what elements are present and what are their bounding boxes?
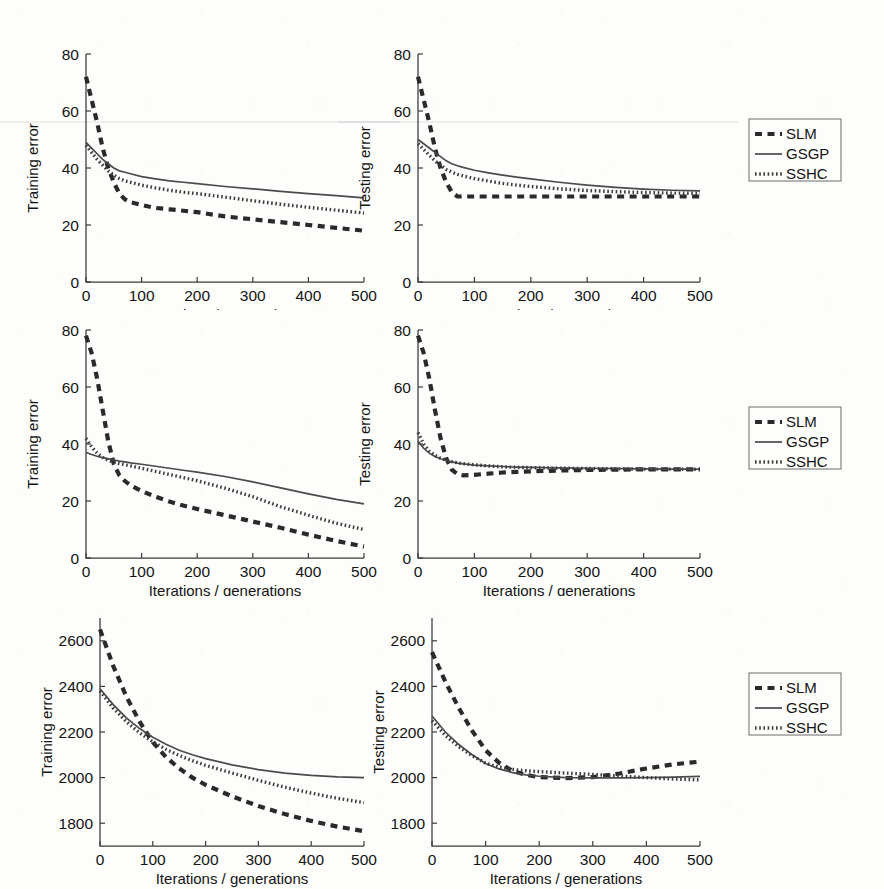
x-tick-label: 200	[193, 851, 219, 868]
series-line-sshc	[86, 145, 364, 213]
y-tick-label: 60	[394, 103, 412, 120]
chart-panel-row1-testing: 0204060800100200300400500Iterations / ge…	[338, 18, 738, 310]
x-tick-label: 300	[580, 851, 606, 868]
y-tick-label: 60	[394, 379, 412, 396]
axis-spine	[418, 54, 700, 282]
x-tick-label: 500	[687, 851, 713, 868]
legend-item-slm[interactable]: SLM	[755, 679, 817, 696]
chart-legend-row2: SLMGSGPSSHC	[748, 406, 846, 474]
axis-spine	[86, 330, 364, 558]
series-line-gsgp	[86, 453, 364, 504]
y-tick-label: 0	[70, 550, 79, 567]
y-tick-label: 40	[62, 160, 80, 177]
x-tick-label: 100	[140, 851, 166, 868]
series-line-slm	[100, 629, 364, 831]
x-tick-label: 0	[414, 563, 423, 580]
x-tick-label: 100	[129, 287, 155, 304]
figure-root: 0204060800100200300400500Iterations / ge…	[0, 0, 884, 889]
y-tick-label: 20	[62, 217, 80, 234]
x-tick-label: 0	[414, 287, 423, 304]
chart-legend-row3: SLMGSGPSSHC	[748, 672, 846, 740]
x-tick-label: 500	[687, 287, 713, 304]
series-group	[432, 652, 700, 780]
x-tick-label: 500	[687, 563, 713, 580]
x-axis-title: Iterations / generations	[490, 870, 643, 887]
x-tick-label: 200	[518, 563, 544, 580]
x-tick-label: 200	[526, 851, 552, 868]
y-tick-label: 40	[394, 436, 412, 453]
x-tick-label: 300	[574, 287, 600, 304]
chart-panel-row3-testing: 180020002200240026000100200300400500Iter…	[338, 594, 738, 889]
x-tick-label: 0	[82, 287, 91, 304]
legend-item-gsgp[interactable]: GSGP	[755, 699, 829, 716]
y-tick-label: 2000	[59, 769, 94, 786]
x-tick-label: 400	[295, 287, 321, 304]
y-tick-label: 0	[70, 274, 79, 291]
y-tick-label: 2400	[391, 678, 426, 695]
series-line-gsgp	[418, 140, 700, 191]
legend-item-gsgp[interactable]: GSGP	[755, 145, 829, 162]
chart-panel-row2-testing: 0204060800100200300400500Iterations / ge…	[338, 306, 738, 596]
series-group	[418, 77, 700, 197]
legend-item-slm[interactable]: SLM	[755, 413, 817, 430]
y-tick-label: 80	[62, 322, 80, 339]
x-tick-label: 400	[631, 287, 657, 304]
x-tick-label: 100	[473, 851, 499, 868]
x-tick-label: 200	[518, 287, 544, 304]
legend-item-gsgp[interactable]: GSGP	[755, 433, 829, 450]
chart-legend-row1: SLMGSGPSSHC	[748, 118, 846, 186]
legend-label: GSGP	[786, 699, 829, 716]
legend-label: GSGP	[786, 433, 829, 450]
legend-item-slm[interactable]: SLM	[755, 125, 817, 142]
axes: 0204060800100200300400500	[394, 322, 714, 581]
y-tick-label: 0	[402, 550, 411, 567]
axis-spine	[86, 54, 364, 282]
y-tick-label: 40	[62, 436, 80, 453]
series-line-sshc	[418, 144, 700, 194]
y-axis-title: Training error	[38, 687, 55, 776]
y-axis-title: Testing error	[356, 126, 373, 209]
y-tick-label: 60	[62, 103, 80, 120]
y-tick-label: 2400	[59, 678, 94, 695]
y-tick-label: 2600	[59, 632, 94, 649]
x-tick-label: 200	[184, 563, 210, 580]
series-line-gsgp	[100, 689, 364, 778]
series-line-slm	[86, 336, 364, 547]
y-axis-title: Testing error	[356, 402, 373, 485]
y-tick-label: 40	[394, 160, 412, 177]
series-group	[86, 77, 364, 231]
series-line-gsgp	[432, 716, 700, 778]
legend-item-sshc[interactable]: SSHC	[755, 719, 828, 736]
series-line-slm	[418, 336, 700, 476]
legend-item-sshc[interactable]: SSHC	[755, 453, 828, 470]
y-tick-label: 1800	[59, 815, 94, 832]
y-tick-label: 80	[394, 46, 412, 63]
y-tick-label: 60	[62, 379, 80, 396]
series-line-gsgp	[86, 142, 364, 198]
y-tick-label: 1800	[391, 815, 426, 832]
legend-label: SLM	[786, 679, 817, 696]
series-line-sshc	[418, 433, 700, 470]
x-tick-label: 300	[240, 287, 266, 304]
legend-item-sshc[interactable]: SSHC	[755, 165, 828, 182]
series-line-slm	[418, 77, 700, 197]
x-axis-title: Iterations / generations	[156, 870, 309, 887]
axes: 180020002200240026000100200300400500	[59, 618, 378, 868]
series-line-sshc	[100, 691, 364, 803]
y-tick-label: 2600	[391, 632, 426, 649]
y-tick-label: 80	[394, 322, 412, 339]
series-line-slm	[432, 652, 700, 778]
legend-label: GSGP	[786, 145, 829, 162]
y-tick-label: 2000	[391, 769, 426, 786]
y-axis-title: Training error	[24, 399, 41, 488]
y-tick-label: 2200	[59, 724, 94, 741]
x-tick-label: 0	[428, 851, 437, 868]
axes: 180020002200240026000100200300400500	[391, 618, 714, 868]
x-tick-label: 300	[574, 563, 600, 580]
series-group	[418, 336, 700, 476]
x-tick-label: 400	[633, 851, 659, 868]
y-tick-label: 20	[62, 493, 80, 510]
x-tick-label: 200	[184, 287, 210, 304]
legend-label: SSHC	[786, 453, 828, 470]
x-tick-label: 400	[295, 563, 321, 580]
